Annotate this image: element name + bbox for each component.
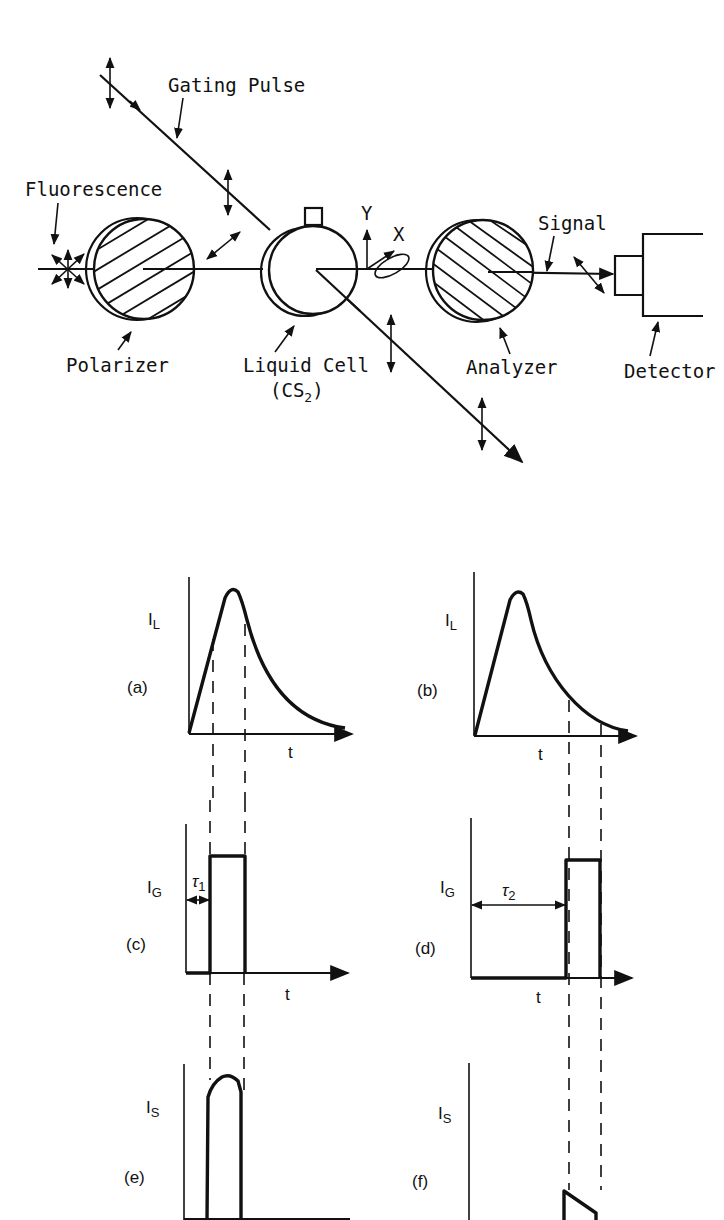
polarization-arrow-icon [207,232,240,259]
detector [615,234,703,316]
graph-e-ylabel: IS [146,1098,160,1120]
axis-x-label: X [393,223,405,245]
graph-d-ylabel: IG [440,878,455,900]
graph-b: IL (b) t [417,572,636,1190]
graph-c-ylabel: IG [147,878,162,900]
analyzer [420,200,540,342]
graph-b-ylabel: IL [445,611,457,633]
graph-d-xlabel: t [536,988,541,1007]
polarization-arrow-icon [574,257,604,293]
liquid-cell-substance: (CS2) [270,379,324,405]
signal-label: Signal [538,212,607,234]
polarizer-label: Polarizer [66,354,169,376]
graph-c-delay: τ1 [192,872,206,894]
graph-c: IG τ1 (c) t [126,800,348,1090]
graph-e-panel: (e) [124,1168,145,1187]
kerr-gate-diagram: Gating Pulse Fluorescence Polarizer [0,0,724,1220]
graph-f-ylabel: IS [438,1104,452,1126]
graph-a-ylabel: IL [148,610,160,632]
graph-a-xlabel: t [288,743,293,762]
graph-d-delay: τ2 [502,881,516,903]
liquid-cell [261,208,360,316]
graph-e: IS (e) [124,1064,350,1220]
detector-label: Detector [624,360,716,382]
analyzer-label: Analyzer [466,356,558,378]
graph-f-panel: (f) [412,1172,428,1191]
xy-axes-icon [367,230,412,282]
axis-y-label: Y [361,202,373,224]
gating-pulse-label: Gating Pulse [168,74,305,96]
graph-c-panel: (c) [126,935,146,954]
graph-b-panel: (b) [417,681,438,700]
liquid-cell-label: Liquid Cell [243,354,369,376]
fluorescence-label: Fluorescence [25,178,162,200]
graph-d: IG τ2 (d) t [415,818,632,1007]
graph-b-xlabel: t [538,745,543,764]
graph-a: IL (a) t [127,577,352,800]
graph-d-panel: (d) [415,939,436,958]
graph-a-panel: (a) [127,678,148,697]
graph-c-xlabel: t [285,985,290,1004]
polarizer [80,192,210,350]
